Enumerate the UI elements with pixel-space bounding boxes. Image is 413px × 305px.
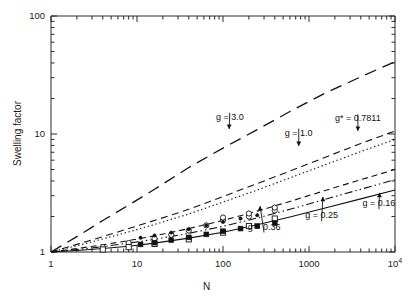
data-point: [256, 214, 259, 217]
data-point: [239, 217, 242, 220]
data-point: [153, 234, 156, 237]
data-point: [220, 215, 225, 220]
y-tick-label-1: 10: [7, 128, 45, 139]
data-point: [221, 229, 226, 234]
annotation-label-2: g* = 0.7811: [330, 113, 386, 123]
data-point: [221, 220, 224, 223]
data-point: [152, 240, 157, 245]
data-point: [205, 224, 208, 227]
x-tick-label-1: 10: [112, 258, 162, 269]
y-tick-label-2: 100: [7, 10, 45, 21]
data-point: [100, 247, 105, 252]
data-point: [126, 245, 131, 250]
data-point: [204, 232, 209, 237]
x-tick-label-2: 100: [198, 258, 248, 269]
x-tick-label-0: 1: [26, 258, 76, 269]
annotation-label-4: g = 0.25: [294, 210, 350, 220]
annotation-label-3: g = 0.36: [236, 222, 292, 232]
data-point: [139, 236, 142, 239]
chart-figure: Swelling factor N 1101001000104110100 g …: [0, 0, 413, 305]
x-axis-title: N: [0, 281, 413, 292]
data-point: [170, 231, 173, 234]
data-point: [246, 211, 251, 216]
annotation-label-0: g = 3.0: [202, 112, 258, 122]
data-point: [138, 242, 143, 247]
data-point: [186, 235, 191, 240]
data-point: [169, 238, 174, 243]
data-point: [187, 228, 190, 231]
x-tick-label-3: 1000: [284, 258, 334, 269]
annotation-label-1: g = 1.0: [271, 128, 327, 138]
x-tick-label-4: 104: [370, 258, 413, 269]
data-point: [272, 205, 277, 210]
y-tick-label-0: 1: [7, 246, 45, 257]
annotation-label-5: g = 0.16: [351, 198, 407, 208]
